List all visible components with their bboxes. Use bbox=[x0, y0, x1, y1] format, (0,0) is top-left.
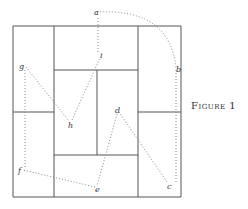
point-label-e: e bbox=[95, 185, 100, 194]
point-label-c: c bbox=[167, 182, 172, 191]
path-a-b bbox=[97, 12, 176, 68]
path-e-f bbox=[23, 170, 95, 187]
point-label-i: i bbox=[100, 51, 103, 60]
point-label-g: g bbox=[19, 62, 24, 71]
point-label-h: h bbox=[68, 121, 73, 130]
point-label-b: b bbox=[176, 65, 181, 74]
square-grid bbox=[13, 26, 181, 197]
point-label-f: f bbox=[17, 166, 23, 175]
point-label-a: a bbox=[94, 8, 99, 17]
path-h-i bbox=[72, 58, 100, 120]
path-c-d bbox=[119, 112, 167, 182]
path-d-e bbox=[97, 114, 117, 186]
point-labels: a b c d e f g h i bbox=[17, 8, 181, 194]
figure-caption: Figure 1 bbox=[191, 100, 236, 111]
dotted-path bbox=[23, 12, 176, 187]
path-g-h bbox=[26, 67, 69, 121]
point-label-d: d bbox=[115, 106, 120, 115]
